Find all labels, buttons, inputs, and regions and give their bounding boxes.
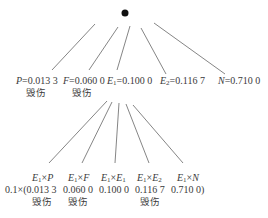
leaf-e1n-value: 0.710 0): [171, 184, 204, 195]
edge-e1-e2: [126, 104, 149, 163]
root-node: [122, 10, 129, 17]
node-p-label: P=0.013 3: [16, 75, 58, 86]
edge-e1-p: [49, 101, 107, 163]
node-f-label: F=0.060 0: [63, 75, 105, 86]
edge-e1-e1: [115, 103, 119, 163]
node-e1-label: E1=0.100 0: [107, 75, 152, 89]
node-f-damage-tag: 毁伤: [72, 87, 92, 98]
node-p-damage-tag: 毁伤: [26, 87, 46, 98]
edge-root-p: [52, 24, 95, 70]
node-n-label: N=0.710 0: [218, 75, 260, 86]
probability-tree-diagram: P=0.013 3 毁伤 F=0.060 0 毁伤 E1=0.100 0 E2=…: [0, 0, 268, 218]
edge-root-n: [154, 23, 225, 74]
leaf-e1e1-value: 0.100 0: [99, 184, 129, 195]
edge-root-e1: [117, 26, 130, 70]
edge-e1-n: [133, 105, 183, 163]
edge-root-e2: [141, 28, 166, 74]
leaf-e1e2-value: 0.116 7: [135, 184, 165, 195]
leaf-e1p-damage-tag: 毁伤: [32, 196, 52, 207]
leaf-e1f-value: 0.060 0: [63, 184, 93, 195]
node-e2-label: E2=0.116 7: [160, 75, 205, 89]
leaf-e1f-damage-tag: 毁伤: [68, 196, 88, 207]
edge-root-f: [89, 27, 118, 70]
leaf-e1e2-damage-tag: 毁伤: [140, 196, 160, 207]
leaf-e1p-value: 0.1×(0.013 3: [5, 184, 56, 195]
